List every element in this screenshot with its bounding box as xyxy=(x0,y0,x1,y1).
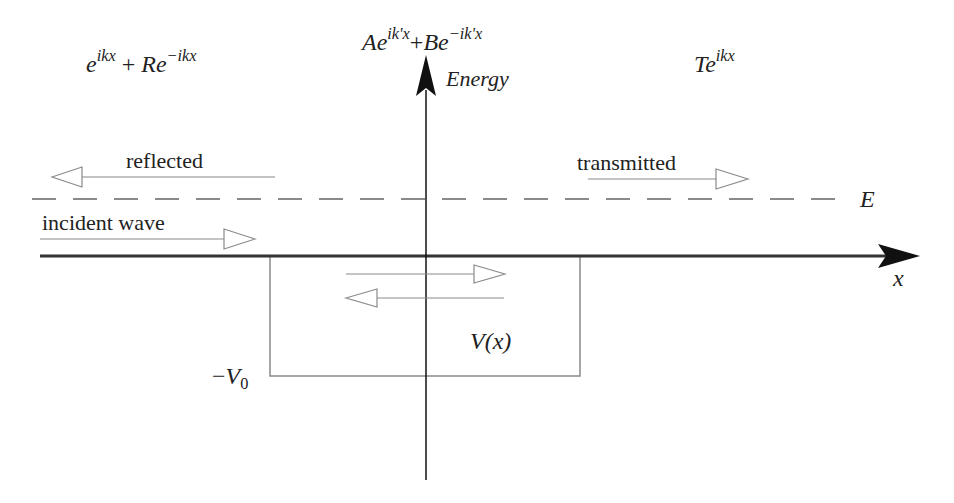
potential-label: V(x) xyxy=(470,329,511,353)
well-right-arrowhead-icon xyxy=(474,265,505,283)
wf-left-exp1: ikx xyxy=(97,46,116,65)
depth-sub: 0 xyxy=(240,374,248,393)
wf-mid-exp1: ik'x xyxy=(387,24,410,43)
wf-right-exp1: ikx xyxy=(716,46,735,65)
wf-mid-base: e xyxy=(377,29,388,55)
energy-level-label: E xyxy=(860,187,875,211)
energy-axis-arrowhead-icon xyxy=(416,55,436,96)
wf-mid-coefB: B xyxy=(423,29,438,55)
depth-sign: − xyxy=(212,363,226,389)
depth-var: V xyxy=(226,363,241,389)
wf-mid-plus: + xyxy=(410,29,424,55)
right-region-wavefunction: Teikx xyxy=(694,48,735,76)
reflected-label: reflected xyxy=(126,150,203,172)
middle-region-wavefunction: Aeik'x+Be−ik'x xyxy=(362,26,482,54)
wf-right-base: e xyxy=(705,51,716,77)
incident-arrowhead-icon xyxy=(224,229,255,249)
transmitted-label: transmitted xyxy=(577,152,676,174)
energy-axis-label: Energy xyxy=(446,68,509,90)
incident-wave-label: incident wave xyxy=(42,212,165,234)
x-axis-label: x xyxy=(893,266,904,290)
wf-left-exp2: −ikx xyxy=(167,46,197,65)
wf-mid-coefA: A xyxy=(362,29,377,55)
wf-left-plus: + xyxy=(122,51,136,77)
reflected-arrowhead-icon xyxy=(52,167,82,187)
wf-left-base: e xyxy=(86,51,97,77)
left-region-wavefunction: eikx + Re−ikx xyxy=(86,48,197,76)
wf-right-coef: T xyxy=(694,51,705,77)
transmitted-arrowhead-icon xyxy=(716,169,748,189)
well-depth-label: −V0 xyxy=(212,364,248,392)
wf-mid-exp2: −ik'x xyxy=(449,24,483,43)
well-left-arrowhead-icon xyxy=(346,289,377,307)
wf-mid-base2: e xyxy=(438,29,449,55)
wf-left-coef: R xyxy=(141,51,156,77)
wf-left-base2: e xyxy=(156,51,167,77)
